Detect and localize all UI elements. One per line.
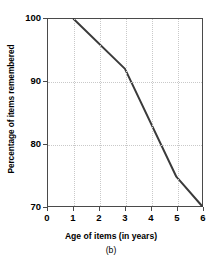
x-tick-label: 1 <box>63 212 83 223</box>
y-tick-mark <box>43 144 47 145</box>
y-tick-label: 90 <box>2 75 41 86</box>
x-tick-mark <box>99 207 100 211</box>
y-tick-mark <box>43 18 47 19</box>
plot-area <box>47 18 203 207</box>
y-tick-label: 70 <box>2 201 41 212</box>
x-tick-mark <box>151 207 152 211</box>
x-tick-mark <box>47 207 48 211</box>
y-tick-label: 100 <box>2 12 41 23</box>
x-tick-mark <box>177 207 178 211</box>
x-tick-label: 4 <box>141 212 161 223</box>
data-line-series <box>48 19 202 206</box>
x-tick-label: 0 <box>37 212 57 223</box>
x-tick-label: 5 <box>167 212 187 223</box>
y-tick-mark <box>43 207 47 208</box>
figure-caption: (b) <box>0 245 222 255</box>
x-tick-mark <box>73 207 74 211</box>
x-axis-title: Age of items (in years) <box>0 231 222 241</box>
x-tick-mark <box>125 207 126 211</box>
series-polyline <box>74 19 202 206</box>
x-tick-label: 2 <box>89 212 109 223</box>
x-tick-label: 3 <box>115 212 135 223</box>
y-tick-mark <box>43 81 47 82</box>
x-tick-mark <box>203 207 204 211</box>
figure-panel-b: Percentage of items remembered 0123456 7… <box>0 0 222 269</box>
y-axis-title: Percentage of items remembered <box>6 9 16 209</box>
y-tick-label: 80 <box>2 138 41 149</box>
x-tick-label: 6 <box>193 212 213 223</box>
